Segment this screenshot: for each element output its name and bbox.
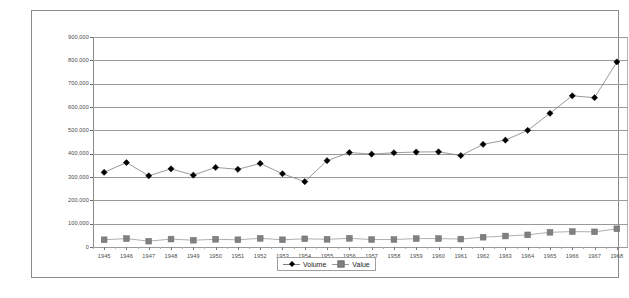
y-axis-tick-label: 700,000 [32, 80, 89, 86]
x-axis-tick-label: 1945 [92, 253, 116, 259]
data-point-marker [591, 95, 597, 101]
x-axis-tick-label: 1946 [114, 253, 138, 259]
x-axis-minor-tick-mark [450, 247, 451, 249]
x-axis-tick-label: 1959 [404, 253, 428, 259]
data-point-marker [324, 236, 330, 242]
data-point-marker [123, 159, 129, 165]
y-axis-tick-label: 0 [32, 244, 89, 250]
x-axis-minor-tick-mark [138, 247, 139, 249]
y-axis-tick-label: 500,000 [32, 127, 89, 133]
data-point-marker [569, 229, 575, 235]
x-axis-minor-tick-mark [361, 247, 362, 249]
data-point-marker [190, 172, 196, 178]
x-axis-tick-mark [349, 247, 350, 250]
chart-frame: 900,000800,000700,000600,000500,000400,0… [31, 10, 619, 278]
data-point-marker [435, 149, 441, 155]
x-axis-tick-mark [104, 247, 105, 250]
series-lines [93, 37, 628, 247]
x-axis-tick-label: 1948 [159, 253, 183, 259]
x-axis-minor-tick-mark [606, 247, 607, 249]
series-line [104, 62, 617, 182]
data-point-marker [369, 237, 375, 243]
data-point-marker [458, 236, 464, 242]
data-point-marker [592, 229, 598, 235]
x-axis-minor-tick-mark [115, 247, 116, 249]
legend-label: Value [352, 261, 369, 268]
y-axis-tick-label: 100,000 [32, 220, 89, 226]
y-axis-tick-mark [90, 107, 93, 108]
x-axis-tick-mark [149, 247, 150, 250]
data-point-marker [257, 235, 263, 241]
x-axis-tick-label: 1951 [226, 253, 250, 259]
x-axis-minor-tick-mark [539, 247, 540, 249]
data-point-marker [614, 226, 620, 232]
x-axis-tick-mark [528, 247, 529, 250]
x-axis-tick-label: 1947 [137, 253, 161, 259]
x-axis-minor-tick-mark [338, 247, 339, 249]
x-axis-minor-tick-mark [182, 247, 183, 249]
x-axis-tick-label: 1966 [560, 253, 584, 259]
x-axis-tick-mark [416, 247, 417, 250]
x-axis-tick-mark [216, 247, 217, 250]
x-axis-tick-mark [505, 247, 506, 250]
x-axis-tick-mark [394, 247, 395, 250]
y-axis-tick-mark [90, 84, 93, 85]
x-axis-tick-label: 1949 [181, 253, 205, 259]
data-point-marker [480, 234, 486, 240]
series-line [104, 229, 617, 241]
x-axis-minor-tick-mark [494, 247, 495, 249]
data-point-marker [525, 232, 531, 238]
x-axis-tick-mark [483, 247, 484, 250]
x-axis-minor-tick-mark [472, 247, 473, 249]
series-value [101, 226, 620, 244]
data-point-marker [280, 237, 286, 243]
x-axis-minor-tick-mark [93, 247, 94, 249]
data-point-marker [525, 127, 531, 133]
x-axis-minor-tick-mark [227, 247, 228, 249]
data-point-marker [101, 237, 107, 243]
data-point-marker [413, 236, 419, 242]
data-point-marker [458, 152, 464, 158]
y-axis-tick-mark [90, 154, 93, 155]
data-point-marker [436, 236, 442, 242]
data-point-marker [369, 151, 375, 157]
x-axis-tick-label: 1962 [471, 253, 495, 259]
x-axis-tick-label: 1950 [204, 253, 228, 259]
x-axis-tick-mark [439, 247, 440, 250]
x-axis-minor-tick-mark [271, 247, 272, 249]
data-point-marker [614, 59, 620, 65]
x-axis-minor-tick-mark [561, 247, 562, 249]
x-axis-tick-label: 1960 [427, 253, 451, 259]
y-axis-tick-mark [90, 37, 93, 38]
x-axis-minor-tick-mark [204, 247, 205, 249]
data-point-marker [190, 237, 196, 243]
data-point-marker [391, 150, 397, 156]
x-axis-tick-label: 1967 [583, 253, 607, 259]
x-axis-tick-label: 1958 [382, 253, 406, 259]
x-axis-tick-mark [550, 247, 551, 250]
x-axis-tick-mark [372, 247, 373, 250]
data-point-marker [101, 169, 107, 175]
y-axis-tick-label: 400,000 [32, 150, 89, 156]
x-axis-tick-mark [260, 247, 261, 250]
x-axis-minor-tick-mark [427, 247, 428, 249]
y-axis-tick-mark [90, 224, 93, 225]
x-axis-tick-mark [305, 247, 306, 250]
chart-legend: VolumeValue [277, 257, 376, 271]
data-point-marker [124, 236, 130, 242]
x-axis-tick-mark [126, 247, 127, 250]
x-axis-tick-mark [595, 247, 596, 250]
data-point-marker [503, 233, 509, 239]
data-point-marker [213, 164, 219, 170]
x-axis-minor-tick-mark [160, 247, 161, 249]
y-axis-tick-mark [90, 200, 93, 201]
data-point-marker [346, 149, 352, 155]
x-axis-minor-tick-mark [249, 247, 250, 249]
data-point-marker [413, 149, 419, 155]
series-volume [101, 59, 620, 185]
x-axis-minor-tick-mark [405, 247, 406, 249]
data-point-marker [168, 166, 174, 172]
data-point-marker [146, 173, 152, 179]
y-axis-tick-label: 300,000 [32, 174, 89, 180]
x-axis-minor-tick-mark [316, 247, 317, 249]
